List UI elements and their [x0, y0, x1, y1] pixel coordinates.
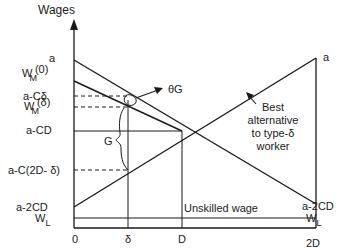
label-wl: WL: [35, 213, 50, 225]
right-label-a: a: [323, 52, 329, 63]
y-axis-arrow-icon: [70, 19, 78, 30]
theta-g-label: θG: [168, 84, 183, 95]
tick-2d: 2D: [306, 238, 320, 249]
theta-g-arrow: [136, 90, 158, 98]
right-label-a-2cd: a-2CD: [302, 201, 334, 212]
g-brace: [116, 108, 128, 170]
theta-g-loop: [124, 95, 136, 106]
tick-0: 0: [72, 234, 78, 245]
best-alt-arrow-head-icon: [246, 92, 254, 100]
label-a-cd: a-CD: [26, 125, 52, 136]
label-a: a: [49, 53, 55, 64]
y-axis-label: Wages: [38, 5, 75, 16]
tick-delta: δ: [125, 234, 131, 245]
label-wmd: WM(δ): [24, 101, 50, 113]
right-label-wl: WL: [306, 213, 321, 225]
best-alternative-label: Best alternative to type-δ worker: [240, 101, 306, 153]
label-a-c2d: a-C(2D- δ): [8, 165, 60, 176]
tick-d: D: [178, 234, 186, 245]
unskilled-wage-label: Unskilled wage: [184, 203, 258, 214]
g-label: G: [104, 136, 113, 147]
label-wm0: WM(0): [22, 68, 48, 80]
